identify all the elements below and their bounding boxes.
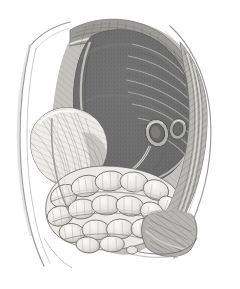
anatomical-plate (0, 0, 240, 289)
engraving-canvas (0, 0, 240, 289)
pubic-tubercle (127, 246, 138, 254)
